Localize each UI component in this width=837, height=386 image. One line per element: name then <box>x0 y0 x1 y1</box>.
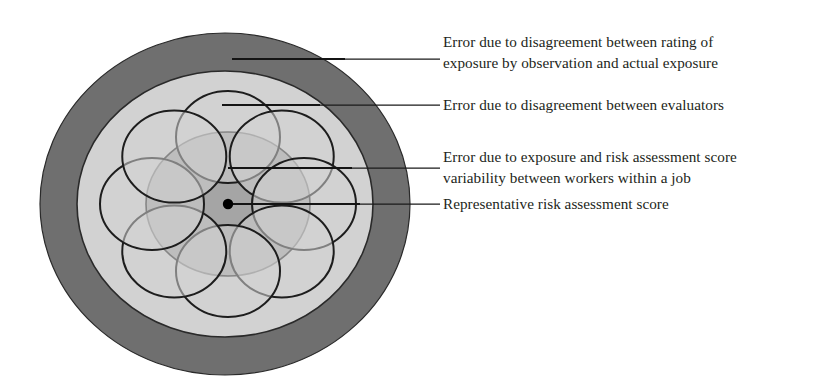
representative-risk-assessment-score-point <box>223 199 233 209</box>
callout-observation-vs-actual-exposure-line-1: Error due to disagreement between rating… <box>443 33 714 50</box>
callout-worker-variability-line-2: variability between workers within a job <box>443 169 691 186</box>
diagram-root: Error due to disagreement between rating… <box>0 0 837 386</box>
callout-representative-score-line-1: Representative risk assessment score <box>443 195 669 212</box>
callout-evaluator-disagreement-line-1: Error due to disagreement between evalua… <box>443 96 724 113</box>
worker-circle-8 <box>122 111 226 203</box>
callout-worker-variability-line-1: Error due to exposure and risk assessmen… <box>443 148 737 165</box>
error-sources-diagram: Error due to disagreement between rating… <box>0 0 837 386</box>
callout-observation-vs-actual-exposure-line-2: exposure by observation and actual expos… <box>443 54 718 71</box>
